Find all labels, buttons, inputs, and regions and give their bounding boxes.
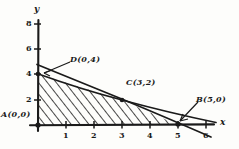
vertex-d bbox=[36, 72, 41, 77]
x-axis-label: x bbox=[220, 118, 225, 127]
x-tick-label-5: 5 bbox=[175, 131, 181, 139]
x-tick-label-3: 3 bbox=[119, 131, 125, 139]
y-tick-label-4: 4 bbox=[26, 69, 32, 77]
vertex-a bbox=[35, 122, 40, 127]
y-tick-label-2: 2 bbox=[26, 95, 32, 103]
y-tick-label-8: 8 bbox=[26, 19, 32, 27]
y-tick-label-6: 6 bbox=[26, 44, 32, 52]
vertex-b bbox=[175, 121, 180, 126]
vertex-c bbox=[120, 98, 125, 103]
x-tick-label-2: 2 bbox=[91, 131, 97, 139]
x-tick-label-1: 1 bbox=[63, 131, 69, 139]
y-axis-label: y bbox=[34, 5, 39, 14]
plot-figure: 8 6 4 2 1 2 3 4 5 6 y x A(0,0) B(5,0) C(… bbox=[0, 0, 239, 149]
point-label-b: B(5,0) bbox=[196, 95, 226, 103]
x-tick-label-6: 6 bbox=[203, 131, 209, 139]
point-label-c: C(3,2) bbox=[126, 78, 156, 86]
point-label-d: D(0,4) bbox=[70, 55, 100, 63]
point-label-a: A(0,0) bbox=[1, 110, 31, 118]
plot-canvas bbox=[0, 0, 239, 149]
x-tick-label-4: 4 bbox=[147, 131, 153, 139]
